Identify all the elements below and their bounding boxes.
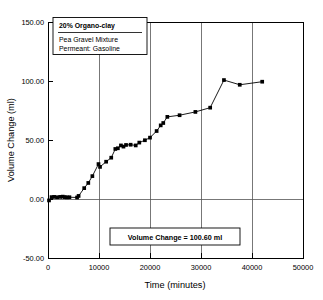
data-point [77, 194, 81, 198]
data-point [91, 174, 95, 178]
data-point [260, 80, 264, 84]
x-tick-label-50000: 50000 [293, 263, 314, 272]
y-axis-title: Volume Change (ml) [6, 98, 16, 182]
data-point [222, 78, 226, 82]
x-tick-label-30000: 30000 [191, 263, 212, 272]
x-tick-label-20000: 20000 [140, 263, 161, 272]
data-point [98, 165, 102, 169]
x-axis-tick-labels: 0 10000 20000 30000 40000 50000 [46, 263, 313, 272]
data-point [148, 136, 152, 140]
annotation-text: Volume Change = 100.60 ml [128, 233, 222, 242]
chart-container: 150.00 100.00 50.00 0.00 -50.00 0 10000 … [0, 0, 323, 300]
data-point [208, 106, 212, 110]
y-tick-label-150: 150.00 [21, 18, 44, 27]
data-point [161, 121, 165, 125]
data-point [47, 199, 51, 203]
legend-title: 20% Organo-clay [59, 22, 115, 30]
data-point [86, 181, 90, 185]
y-axis-tick-labels: 150.00 100.00 50.00 0.00 -50.00 [21, 18, 44, 263]
x-tick-label-10000: 10000 [89, 263, 110, 272]
y-tick-label-neg50: -50.00 [23, 254, 44, 263]
data-point [238, 83, 242, 87]
x-tick-label-0: 0 [46, 263, 50, 272]
data-point [134, 144, 138, 148]
data-point [124, 143, 128, 147]
data-point [143, 138, 147, 142]
data-point [82, 186, 86, 190]
legend-box: 20% Organo-clay Pea Gravel Mixture Perme… [53, 18, 147, 55]
legend-line-permeant: Permeant: Gasoline [59, 45, 120, 52]
legend-line-mixture: Pea Gravel Mixture [59, 36, 118, 43]
y-tick-label-0: 0.00 [30, 195, 44, 204]
data-point [178, 113, 182, 117]
data-point [129, 143, 133, 147]
data-point [155, 129, 159, 133]
data-point [109, 156, 113, 160]
x-tick-label-40000: 40000 [242, 263, 263, 272]
y-tick-label-100: 100.00 [21, 77, 44, 86]
data-point [68, 195, 72, 199]
data-point [194, 110, 198, 114]
y-tick-label-50: 50.00 [26, 136, 45, 145]
plot-area-background [48, 22, 303, 258]
data-point [104, 160, 108, 164]
data-point [137, 141, 141, 145]
x-axis-title: Time (minutes) [145, 280, 206, 290]
data-point [165, 115, 169, 119]
volume-change-line-chart: 150.00 100.00 50.00 0.00 -50.00 0 10000 … [0, 0, 323, 300]
annotation-callout: Volume Change = 100.60 ml [110, 228, 240, 245]
